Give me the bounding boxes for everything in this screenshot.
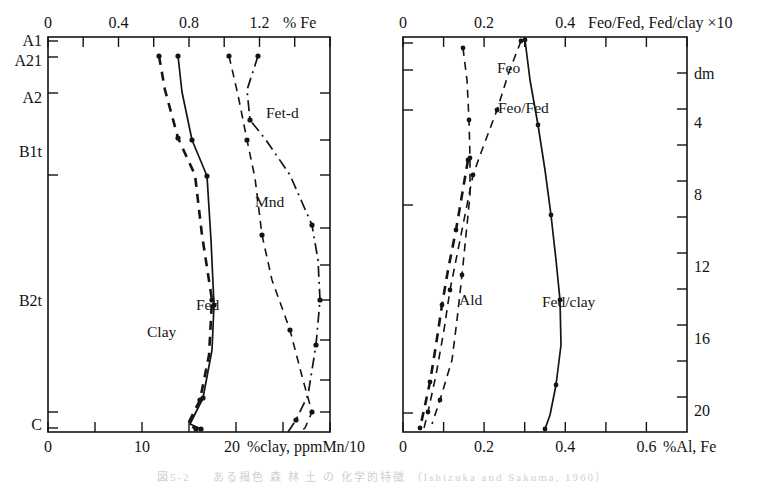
right-panel [403, 37, 687, 432]
right-top-axis-label: Feo/Fed, Fed/clay ×10 [588, 14, 733, 32]
horizon-label-a2: A2 [22, 89, 42, 106]
depth-tick-20: 20 [694, 402, 710, 419]
curve-label-ald: Ald [459, 291, 483, 308]
left-bottom-tick-1: 10 [134, 438, 150, 455]
curve-label-mnd: Mnd [255, 193, 285, 210]
depth-tick-16: 16 [694, 330, 710, 347]
right-bottom-ticks [403, 422, 646, 432]
curve-label-fed: Fed [196, 296, 220, 313]
left-plot-frame [48, 37, 330, 432]
horizon-label-a21: A21 [14, 52, 42, 69]
right-left-edge-ticks [403, 43, 413, 413]
figure-container: 0 0.4 0.8 1.2 % Fe 0 10 20 %clay, ppmMn/… [0, 0, 765, 492]
depth-axis-ticks [677, 73, 687, 397]
horizon-label-c: C [31, 416, 42, 433]
horizon-label-b1t: B1t [19, 143, 43, 160]
curve-feo-markers [438, 46, 473, 403]
left-bottom-ticks [48, 422, 330, 432]
right-top-tick-0: 0 [399, 14, 407, 31]
right-bottom-tick-0: 0 [399, 438, 407, 455]
right-top-tick-1: 0.2 [474, 14, 494, 31]
right-top-ticks [403, 37, 687, 47]
curve-label-fed-clay: Fed/clay [542, 293, 596, 310]
left-bottom-tick-2: 20 [224, 438, 240, 455]
right-bottom-axis-label: %Al, Fe [663, 438, 716, 455]
depth-axis-unit: dm [694, 65, 715, 82]
soil-profile-chart: 0 0.4 0.8 1.2 % Fe 0 10 20 %clay, ppmMn/… [0, 0, 765, 492]
left-panel [48, 37, 330, 432]
depth-tick-12: 12 [694, 258, 710, 275]
right-plot-frame [403, 37, 687, 432]
left-horizon-ticks [48, 41, 58, 428]
horizon-label-b2t: B2t [19, 292, 43, 309]
curve-fed [178, 56, 214, 429]
curve-label-feo: Feo [497, 59, 521, 76]
left-top-tick-2: 0.8 [179, 14, 199, 31]
left-bottom-tick-0: 0 [44, 438, 52, 455]
left-right-edge-ticks [320, 93, 330, 412]
horizon-label-a1: A1 [22, 32, 42, 49]
right-bottom-tick-3: 0.6 [636, 438, 656, 455]
left-top-tick-3: 1.2 [250, 14, 270, 31]
curve-label-clay: Clay [147, 323, 177, 340]
figure-caption: 図5-2 ある褐色 森 林 土 の 化学的特徴 （Ishizuka and Sa… [0, 462, 765, 492]
right-bottom-tick-2: 0.4 [555, 438, 575, 455]
depth-tick-4: 4 [694, 114, 702, 131]
left-top-axis-label: % Fe [283, 14, 316, 31]
left-bottom-axis-label: %clay, ppmMn/10 [247, 438, 365, 456]
curve-fed-clay-markers [523, 38, 563, 432]
left-top-ticks [48, 37, 330, 47]
left-top-tick-1: 0.4 [109, 14, 129, 31]
left-top-tick-0: 0 [44, 14, 52, 31]
depth-tick-8: 8 [694, 186, 702, 203]
curve-label-fet-d: Fet-d [266, 104, 299, 121]
right-bottom-tick-1: 0.2 [474, 438, 494, 455]
curve-label-feo-fed: Feo/Fed [498, 99, 549, 116]
curve-feo-fed-markers [426, 39, 524, 415]
right-top-tick-2: 0.4 [555, 14, 575, 31]
